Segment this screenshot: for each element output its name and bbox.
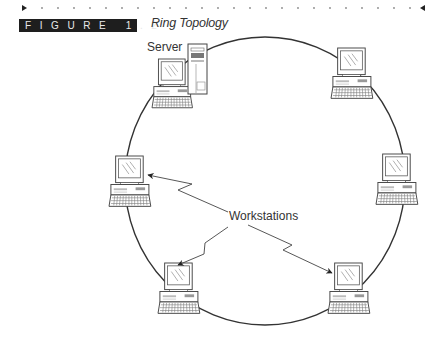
workstations-label: Workstations — [229, 209, 298, 223]
server-tower-icon — [188, 44, 207, 94]
workstation-left — [109, 156, 151, 206]
callout-arrow-bottom-left — [178, 227, 228, 265]
server-label: Server — [147, 40, 182, 54]
workstation-bottom-left — [158, 263, 200, 313]
callout-arrow-bottom-right — [248, 225, 332, 273]
callout-arrow-left — [148, 175, 228, 212]
ring-topology-diagram — [0, 0, 443, 342]
workstation-top-right — [331, 48, 373, 98]
workstation-right — [376, 154, 418, 204]
workstation-bottom-right — [328, 263, 370, 313]
